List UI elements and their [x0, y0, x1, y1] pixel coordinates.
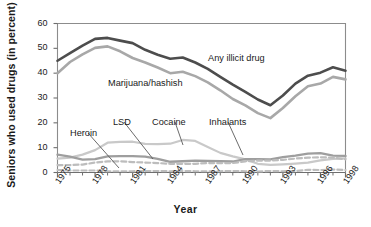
y-tick-label: 60 [26, 18, 48, 28]
plot-frame [58, 24, 346, 173]
y-axis-title-container: Seniors who used drugs (in percent) [0, 0, 23, 190]
series-label-any-illicit-drug: Any illicit drug [208, 53, 265, 63]
plot-canvas [0, 0, 371, 227]
series-label-heroin: Heroin [70, 128, 97, 138]
drug-use-line-chart: Seniors who used drugs (in percent) Year… [0, 0, 371, 227]
y-axis-title: Seniors who used drugs (in percent) [5, 2, 17, 188]
series-label-lsd: LSD [113, 117, 131, 127]
annotation-leader-line [124, 122, 153, 159]
series-label-inhalants: Inhalants [209, 117, 246, 127]
y-tick-label: 10 [26, 142, 48, 152]
series-line-marijuana-hashish [58, 46, 346, 118]
y-tick-label: 30 [26, 92, 48, 102]
x-axis-title: Year [0, 203, 371, 215]
series-label-marijuana-hashish: Marijuana/hashish [108, 78, 183, 88]
y-tick-label: 20 [26, 117, 48, 127]
y-tick-label: 50 [26, 42, 48, 52]
y-tick-label: 0 [26, 167, 48, 177]
series-label-cocaine: Cocaine [152, 117, 186, 127]
y-tick-label: 40 [26, 67, 48, 77]
